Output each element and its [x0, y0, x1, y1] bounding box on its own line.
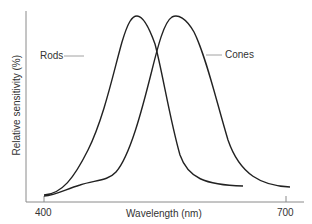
sensitivity-chart	[0, 0, 312, 224]
rods-label: Rods	[40, 51, 63, 61]
rods-curve	[44, 16, 243, 195]
y-axis-label: Relative sensitivity (%)	[11, 56, 22, 156]
x-tick-label-700: 700	[277, 208, 294, 218]
x-axis-label: Wavelength (nm)	[126, 209, 202, 219]
x-tick-label-400: 400	[35, 208, 52, 218]
cones-curve	[44, 16, 290, 196]
cones-label: Cones	[225, 50, 254, 60]
